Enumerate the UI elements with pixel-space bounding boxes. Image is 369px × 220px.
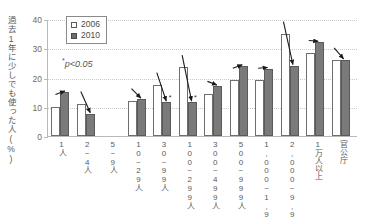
bar-chart: 過去1年に少しでも使った人(%) 40 30 20 10 0 ** [0, 0, 369, 220]
x-axis-label-text: 1人 [57, 140, 66, 218]
bar-2010 [239, 66, 248, 136]
x-axis-label-text: 2,000~9,999人 [288, 140, 297, 218]
bar-2010 [290, 66, 299, 136]
x-axis-label: 1万人以上 [306, 140, 329, 218]
y-tick-20: 20 [22, 74, 42, 84]
x-axis-label: 5~9人 [101, 140, 124, 218]
x-axis-label-text: 2~4人 [83, 140, 92, 218]
x-axis-label-text: 30~99人 [160, 140, 169, 218]
x-axis-label-text: 300~499人 [211, 140, 220, 218]
y-tick-30: 30 [22, 44, 42, 54]
bar-2010 [86, 114, 95, 136]
x-axis-label: 1,000~1,999人 [255, 140, 278, 218]
bar-group [179, 20, 202, 136]
tickmark-0 [44, 137, 48, 138]
x-axis-label: 2~4人 [76, 140, 99, 218]
x-axis-label-text: 1万人以上 [313, 140, 322, 218]
legend: 2006 2010 [66, 16, 107, 44]
significance-text: p<0.05 [65, 59, 93, 69]
y-tick-10: 10 [22, 103, 42, 113]
bar-group [153, 20, 176, 136]
x-axis-label-text: 500~999人 [236, 140, 245, 218]
x-axis-label-text: 100~299人 [185, 140, 194, 218]
y-tick-0: 0 [22, 132, 42, 142]
x-axis-label-text: 5~9人 [108, 140, 117, 218]
x-axis-label: 300~499人 [204, 140, 227, 218]
bar-group [306, 20, 329, 136]
bar-2010 [264, 69, 273, 136]
bar-2006 [230, 80, 239, 136]
bar-2006 [306, 53, 315, 136]
bar-2006 [204, 94, 213, 136]
bar-2006 [332, 60, 341, 136]
bar-group [128, 20, 151, 136]
legend-swatch-2010 [71, 33, 77, 39]
bar-2010 [341, 60, 350, 136]
bar-group [255, 20, 278, 136]
legend-item-2010: 2010 [71, 30, 100, 41]
bar-2010 [315, 42, 324, 136]
legend-swatch-2006 [71, 22, 77, 28]
bar-2006 [51, 107, 60, 136]
legend-label-2006: 2006 [81, 19, 100, 30]
bar-group [332, 20, 355, 136]
legend-label-2010: 2010 [81, 30, 100, 41]
bar-2010 [137, 99, 146, 136]
bar-2010 [60, 92, 69, 136]
bar-2006 [77, 104, 86, 136]
bar-group [281, 20, 304, 136]
bar-2006 [179, 67, 188, 136]
x-axis-label: 10~29人 [127, 140, 150, 218]
x-axis-label-text: 官公庁 [339, 140, 348, 218]
bar-group [204, 20, 227, 136]
x-axis-label: 30~99人 [153, 140, 176, 218]
bar-2010 [162, 102, 171, 136]
y-tick-40: 40 [22, 15, 42, 25]
x-axis-label-text: 1,000~1,999人 [262, 140, 271, 218]
x-axis-label: 500~999人 [229, 140, 252, 218]
x-axis-labels: 1人2~4人5~9人10~29人30~99人100~299人300~499人50… [47, 140, 357, 218]
x-axis-label: 2,000~9,999人 [281, 140, 304, 218]
bar-2006 [128, 101, 137, 136]
bar-2006 [153, 85, 162, 136]
bar-2010 [213, 86, 222, 136]
x-axis-label-text: 10~29人 [134, 140, 143, 218]
bar-2006 [255, 80, 264, 136]
bar-2010 [188, 102, 197, 136]
bar-2006 [281, 34, 290, 136]
y-axis-title: 過去1年に少しでも使った人(%) [1, 16, 15, 144]
x-axis-label: 100~299人 [178, 140, 201, 218]
legend-item-2006: 2006 [71, 19, 100, 30]
significance-note: *p<0.05 [62, 57, 93, 69]
x-axis-label: 官公庁 [332, 140, 355, 218]
x-axis-label: 1人 [50, 140, 73, 218]
bar-group [230, 20, 253, 136]
